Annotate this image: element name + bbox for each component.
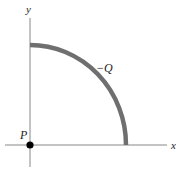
point-p — [26, 141, 33, 148]
point-p-label: P — [19, 128, 28, 142]
x-axis-label: x — [170, 139, 176, 151]
y-axis-label: y — [25, 3, 31, 15]
arc-charge-label: −Q — [96, 61, 113, 75]
charged-arc — [30, 45, 126, 145]
diagram-canvas: y x P −Q — [0, 0, 183, 176]
